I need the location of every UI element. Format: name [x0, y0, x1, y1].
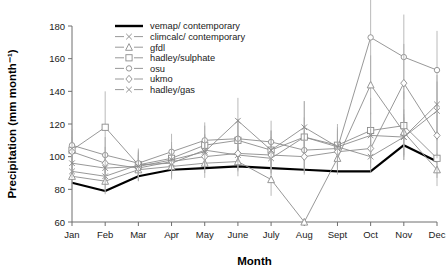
- legend-label: hadley/gas: [150, 85, 195, 95]
- data-point-circle: [126, 66, 131, 71]
- x-tick-label: Mar: [130, 229, 146, 240]
- series-1: [69, 82, 440, 193]
- data-point-triangle: [126, 44, 133, 51]
- y-tick-label: 100: [49, 151, 65, 162]
- data-point-square: [102, 124, 108, 130]
- legend-item: ukmo: [115, 74, 173, 84]
- x-tick-label: Dec: [429, 229, 446, 240]
- data-point-diamond: [301, 153, 307, 160]
- x-axis-title: Month: [237, 255, 271, 267]
- y-tick-label: 80: [54, 184, 65, 195]
- series-group: [69, 0, 441, 225]
- y-tick-label: 60: [54, 217, 65, 228]
- legend-label: ukmo: [150, 74, 173, 84]
- data-point-x: [126, 87, 132, 93]
- x-tick-label: May: [196, 229, 214, 240]
- legend-label: climcalc/ contemporary: [150, 32, 245, 42]
- legend-item: osu: [115, 64, 165, 74]
- x-tick-label: July: [263, 229, 280, 240]
- legend-item: hadley/gas: [115, 85, 195, 95]
- y-axis-title: Precipitation (mm month⁻¹): [6, 49, 18, 198]
- legend-label: gfdl: [150, 43, 165, 53]
- data-point-diamond: [235, 150, 241, 157]
- x-tick-label: Sept: [328, 229, 348, 240]
- precipitation-line-chart: 6080100120140160180JanFebMarAprMayJuneJu…: [0, 0, 448, 278]
- y-tick-label: 140: [49, 86, 65, 97]
- legend-label: vemap/ contemporary: [150, 21, 240, 31]
- series-line: [72, 83, 437, 168]
- legend-label: hadley/sulphate: [150, 53, 215, 63]
- data-point-triangle: [268, 176, 275, 183]
- x-tick-label: Feb: [97, 229, 113, 240]
- y-tick-label: 120: [49, 119, 65, 130]
- y-tick-label: 180: [49, 21, 65, 32]
- legend-label: osu: [150, 64, 165, 74]
- x-tick-label: Jan: [64, 229, 79, 240]
- x-tick-label: June: [228, 229, 249, 240]
- data-point-diamond: [126, 75, 132, 82]
- data-point-square: [126, 55, 132, 61]
- x-tick-label: Aug: [296, 229, 313, 240]
- legend-item: climcalc/ contemporary: [115, 32, 245, 42]
- data-point-circle: [368, 35, 373, 40]
- legend-item: gfdl: [115, 43, 165, 53]
- series-line: [72, 104, 437, 168]
- x-tick-label: Apr: [164, 229, 179, 240]
- data-point-circle: [434, 67, 439, 72]
- y-tick-label: 160: [49, 53, 65, 64]
- data-point-x: [126, 34, 132, 40]
- series-line: [72, 126, 437, 165]
- x-tick-label: Nov: [395, 229, 412, 240]
- series-line: [72, 85, 437, 222]
- legend-group: vemap/ contemporaryclimcalc/ contemporar…: [115, 21, 245, 95]
- chart-figure: 6080100120140160180JanFebMarAprMayJuneJu…: [0, 0, 448, 278]
- x-tick-label: Oct: [363, 229, 378, 240]
- legend-item: hadley/sulphate: [115, 53, 215, 63]
- legend-item: vemap/ contemporary: [115, 21, 240, 31]
